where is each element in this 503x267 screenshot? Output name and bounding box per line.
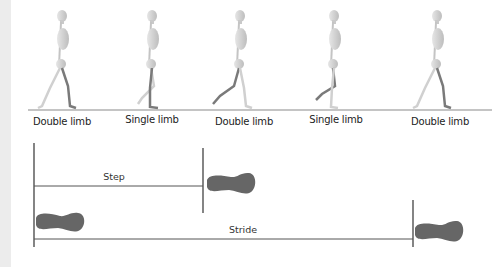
step-label: Step (103, 171, 125, 182)
skeleton-figure-4 (316, 10, 341, 108)
phase-label-2: Single limb (125, 114, 178, 125)
skeleton-figure-2 (138, 10, 159, 108)
phase-label-1: Double limb (33, 116, 91, 127)
phase-label-4: Single limb (309, 114, 362, 125)
skeleton-figure-1 (38, 10, 76, 108)
skeleton-figure-3 (213, 10, 252, 108)
footprint-icon (415, 221, 463, 242)
footprint-icon (207, 173, 255, 194)
phase-label-3: Double limb (215, 116, 273, 127)
stride-label: Stride (229, 224, 257, 235)
gait-diagram: Double limb Single limb Double limb Sing… (0, 0, 503, 267)
skeleton-figure-5 (413, 10, 451, 108)
footprint-icon (36, 213, 84, 232)
phase-label-5: Double limb (411, 116, 469, 127)
